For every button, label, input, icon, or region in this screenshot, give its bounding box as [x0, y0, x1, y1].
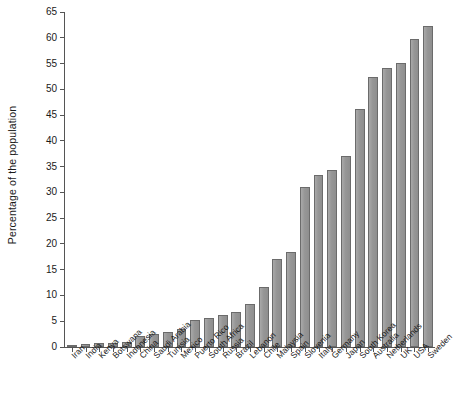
bar [300, 187, 310, 347]
y-axis-tick-label: 30 [46, 187, 60, 197]
bar [368, 77, 378, 347]
bar [341, 156, 351, 347]
y-axis-tick-label: 10 [46, 290, 60, 300]
y-axis-tick-label: 25 [46, 213, 60, 223]
plot-area [64, 12, 435, 348]
bar [355, 109, 365, 347]
x-axis: IranIndiaKenyaBotswanaIndonesiaChinaSaud… [64, 348, 435, 410]
y-axis-title: Percentage of the population [0, 0, 24, 350]
y-axis-tick-label: 55 [46, 59, 60, 69]
bar [423, 26, 433, 347]
bar [327, 170, 337, 347]
bar [314, 175, 324, 347]
y-axis-tick-label: 40 [46, 136, 60, 146]
bar [382, 68, 392, 347]
bar [410, 39, 420, 347]
y-axis-tick-label: 0 [51, 342, 60, 352]
y-axis-tick-label: 45 [46, 110, 60, 120]
y-axis-tick-label: 20 [46, 239, 60, 249]
y-axis-title-text: Percentage of the population [6, 106, 18, 244]
y-axis-tick-label: 65 [46, 7, 60, 17]
y-axis-tick-label: 60 [46, 33, 60, 43]
y-axis: 05101520253035404550556065 [24, 12, 64, 352]
y-axis-tick-label: 35 [46, 162, 60, 172]
y-axis-tick-label: 15 [46, 265, 60, 275]
y-axis-tick-label: 5 [51, 316, 60, 326]
bar [396, 63, 406, 347]
bar-series [65, 12, 435, 347]
y-axis-tick-label: 50 [46, 84, 60, 94]
